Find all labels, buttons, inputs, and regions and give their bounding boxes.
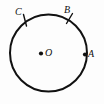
point-label-o: O bbox=[45, 48, 52, 58]
center-point-dot-o bbox=[39, 51, 43, 55]
point-label-a: A bbox=[88, 49, 94, 59]
point-label-b: B bbox=[64, 5, 70, 15]
circle-diagram-canvas: O A B C bbox=[0, 0, 104, 104]
point-label-c: C bbox=[15, 7, 22, 17]
point-dot-a bbox=[83, 52, 87, 56]
